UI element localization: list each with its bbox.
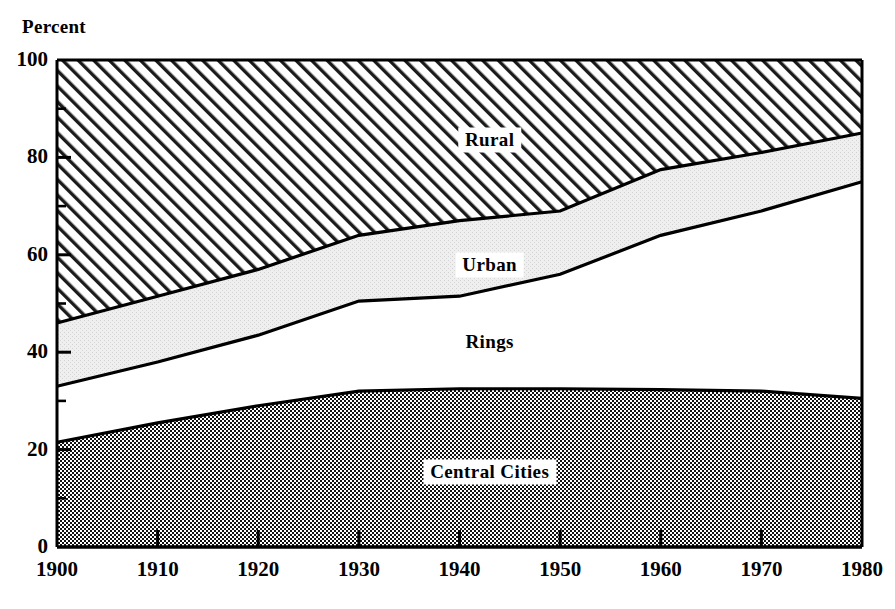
x-tick-label-1920: 1920 — [237, 559, 279, 580]
y-tick-label-100: 100 — [17, 49, 49, 70]
x-tick-label-1980: 1980 — [841, 559, 883, 580]
x-tick-label-1910: 1910 — [137, 559, 179, 580]
y-axis-tick-labels: 020406080100 — [0, 0, 48, 609]
y-tick-label-20: 20 — [27, 439, 48, 460]
y-tick-label-60: 60 — [27, 244, 48, 265]
chart-plot-area — [0, 0, 895, 609]
band-label-rings: Rings — [458, 330, 520, 355]
band-label-rural: Rural — [458, 128, 522, 153]
x-tick-label-1900: 1900 — [36, 559, 78, 580]
x-tick-label-1930: 1930 — [338, 559, 380, 580]
y-tick-label-40: 40 — [27, 341, 48, 362]
x-tick-label-1950: 1950 — [539, 559, 581, 580]
x-tick-label-1970: 1970 — [740, 559, 782, 580]
x-tick-label-1960: 1960 — [640, 559, 682, 580]
band-label-urban: Urban — [455, 252, 524, 277]
y-tick-label-80: 80 — [27, 146, 48, 167]
band-label-central-cities: Central Cities — [423, 459, 556, 484]
area-chart: Percent 020406080100 — [0, 0, 895, 609]
x-tick-label-1940: 1940 — [439, 559, 481, 580]
y-tick-label-0: 0 — [38, 536, 49, 557]
